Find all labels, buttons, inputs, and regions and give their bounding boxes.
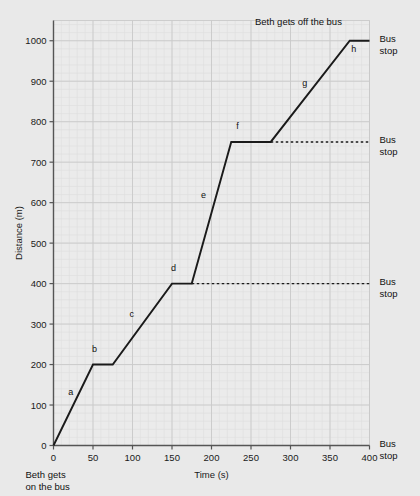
bus-stop-label-0-line2: stop (380, 45, 398, 56)
bus-stop-label-2-line1: Bus (380, 276, 397, 287)
x-tick-label: 350 (322, 452, 338, 463)
y-tick-label: 300 (31, 319, 47, 330)
y-tick-label: 500 (31, 238, 47, 249)
y-tick-label: 400 (31, 278, 47, 289)
x-tick-label: 150 (164, 452, 180, 463)
chart-canvas: 1000900800700600500400300200100005010015… (0, 0, 420, 496)
y-tick-label: 0 (41, 440, 46, 451)
bus-stop-label-3-line1: Bus (380, 438, 397, 449)
segment-label-g: g (302, 78, 307, 88)
y-tick-label: 1000 (25, 35, 46, 46)
y-tick-label: 800 (31, 116, 47, 127)
segment-label-e: e (201, 190, 206, 200)
y-tick-label: 700 (31, 157, 47, 168)
segment-label-h: h (351, 44, 356, 54)
segment-label-a: a (68, 387, 73, 397)
x-tick-label: 400 (362, 452, 378, 463)
segment-label-c: c (129, 309, 134, 319)
y-axis-title: Distance (m) (13, 206, 24, 260)
x-tick-label: 250 (243, 452, 259, 463)
bus-stop-label-0-line1: Bus (380, 33, 397, 44)
bus-stop-label-1-line1: Bus (380, 134, 397, 145)
x-axis-title: Time (s) (194, 469, 228, 480)
y-tick-label: 200 (31, 359, 47, 370)
y-tick-label: 600 (31, 197, 47, 208)
segment-label-b: b (92, 344, 97, 354)
x-tick-label: 300 (283, 452, 299, 463)
segment-label-d: d (171, 263, 176, 273)
annotation-gets-on-the-bus-line2: on the bus (26, 481, 71, 492)
bus-stop-label-2-line2: stop (380, 288, 398, 299)
x-tick-label: 0 (51, 452, 56, 463)
annotation-gets-off-the-bus: Beth gets off the bus (255, 16, 342, 27)
y-tick-label: 100 (31, 400, 47, 411)
bus-stop-label-3-line2: stop (380, 450, 398, 461)
bus-stop-label-1-line2: stop (380, 146, 398, 157)
x-tick-label: 100 (125, 452, 141, 463)
y-tick-label: 900 (31, 76, 47, 87)
distance-time-graph: 1000900800700600500400300200100005010015… (0, 0, 420, 496)
x-tick-label: 200 (204, 452, 220, 463)
x-tick-label: 50 (88, 452, 99, 463)
annotation-gets-on-the-bus-line1: Beth gets (26, 469, 66, 480)
